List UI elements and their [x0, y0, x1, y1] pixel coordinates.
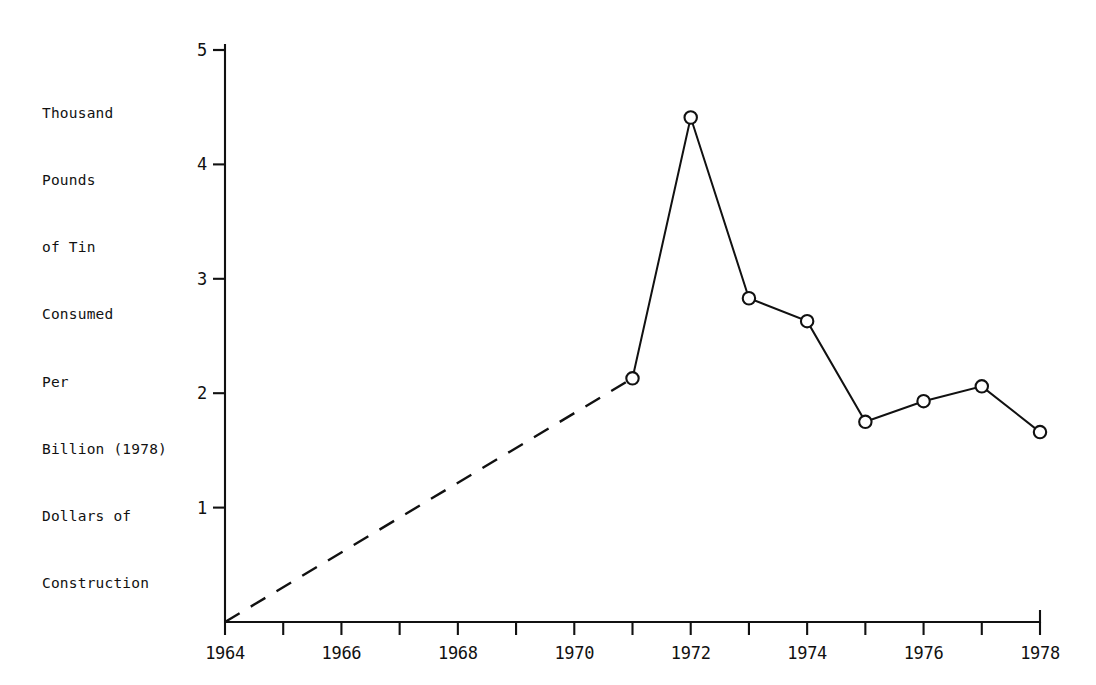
y-axis-tick-label: 2 — [197, 383, 207, 403]
y-axis-caption-line-3: of Tin — [42, 236, 167, 258]
axes-layer — [213, 44, 1040, 622]
dashed-trend-line — [225, 378, 633, 622]
data-series-layer — [225, 118, 1040, 623]
y-axis-caption-line-8: Construction — [42, 572, 167, 594]
x-axis-tick-label: 1976 — [904, 643, 944, 663]
data-point-marker — [626, 372, 638, 384]
y-axis-caption-line-4: Consumed — [42, 303, 167, 325]
data-point-marker — [685, 111, 697, 123]
x-axis-tick-label: 1966 — [322, 643, 362, 663]
y-axis-tick-label: 1 — [197, 498, 207, 518]
data-point-marker — [743, 292, 755, 304]
x-axis-tick-label: 1970 — [554, 643, 594, 663]
data-point-marker — [917, 395, 929, 407]
data-markers-layer — [626, 111, 1046, 438]
y-axis-caption-line-7: Dollars of — [42, 505, 167, 527]
y-axis-caption-line-5: Per — [42, 371, 167, 393]
chart-figure: Thousand Pounds of Tin Consumed Per Bill… — [0, 0, 1096, 685]
x-axis-tick-label: 1972 — [671, 643, 711, 663]
ticks-layer — [213, 50, 1040, 635]
y-axis-tick-label: 4 — [197, 154, 207, 174]
x-axis-tick-label: 1974 — [787, 643, 827, 663]
x-axis-tick-label: 1968 — [438, 643, 478, 663]
y-axis-tick-label: 5 — [197, 40, 207, 60]
tick-labels-layer: 1234519641966196819701972197419761978 — [197, 40, 1060, 663]
y-axis-caption-line-6: Billion (1978) — [42, 438, 167, 460]
y-axis-caption-line-1: Thousand — [42, 102, 167, 124]
y-axis-caption-line-2: Pounds — [42, 169, 167, 191]
x-axis-line — [225, 610, 1040, 622]
y-axis-caption: Thousand Pounds of Tin Consumed Per Bill… — [42, 57, 167, 640]
data-point-marker — [1034, 426, 1046, 438]
y-axis-tick-label: 3 — [197, 269, 207, 289]
x-axis-tick-label: 1978 — [1020, 643, 1060, 663]
x-axis-tick-label: 1964 — [205, 643, 245, 663]
data-point-marker — [859, 416, 871, 428]
data-point-marker — [801, 315, 813, 327]
data-point-marker — [976, 380, 988, 392]
